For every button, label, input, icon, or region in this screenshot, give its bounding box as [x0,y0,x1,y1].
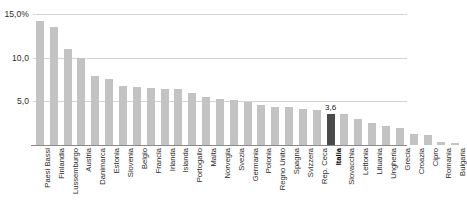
bar-slot [199,14,213,145]
y-axis-tick-label: 5,0 [17,96,29,106]
bar [340,114,348,145]
bar-slot [171,14,185,145]
category-slot: Polonia [255,148,269,212]
bar-series: 3,6 [33,14,407,145]
y-axis: 5,010,015,0% [0,0,31,145]
category-slot: Austria [75,148,89,212]
category-slot: Slovacchia [338,148,352,212]
bar-slot [213,14,227,145]
bar [437,142,445,145]
bar [119,86,127,145]
category-slot: Italia [324,148,338,212]
category-slot: Lettonia [351,148,365,212]
bar [91,76,99,145]
category-slot: Danimarca [88,148,102,212]
category-slot: Estonia [102,148,116,212]
bar [147,88,155,145]
category-slot: Grecia [393,148,407,212]
category-slot: Norvegia [213,148,227,212]
bar-slot [241,14,255,145]
bar-slot [255,14,269,145]
bar [230,100,238,145]
bar-slot [351,14,365,145]
y-axis-tick-label: 15,0% [4,9,29,19]
category-slot: Portogallo [185,148,199,212]
category-slot: Lussemburgo [61,148,75,212]
category-slot: Slovenia [116,148,130,212]
bar [285,107,293,145]
category-slot: Regno Unito [268,148,282,212]
bar [188,93,196,145]
bar-slot [421,14,435,145]
category-slot: Svizzera [296,148,310,212]
bar-slot [102,14,116,145]
bar [424,135,432,145]
category-slot: Lituania [365,148,379,212]
bar [451,143,459,145]
bar-slot [296,14,310,145]
bar [161,89,169,145]
category-label: Bulgaria [459,148,467,176]
bar-slot [47,14,61,145]
bar [133,87,141,145]
bar [299,109,307,145]
category-slot: Paesi Bassi [33,148,47,212]
bar [396,128,404,145]
bar [77,58,85,145]
bar-slot [116,14,130,145]
category-slot: Bulgaria [448,148,462,212]
bar-slot: 3,6 [324,14,338,145]
category-slot: Cipro [421,148,435,212]
bar [174,89,182,145]
bar-slot [227,14,241,145]
bar [105,79,113,145]
category-slot: Finlandia [47,148,61,212]
bar [271,107,279,145]
bar-slot [338,14,352,145]
bar [202,97,210,145]
bar [216,99,224,145]
bar-slot [379,14,393,145]
category-slot: Belgio [130,148,144,212]
bar-slot [310,14,324,145]
bar [313,110,321,145]
category-slot: Francia [144,148,158,212]
bar-slot [407,14,421,145]
bar-slot [61,14,75,145]
category-slot: Germania [241,148,255,212]
category-slot: Svezia [227,148,241,212]
bar-slot [75,14,89,145]
category-slot: Irlanda [158,148,172,212]
bar [36,21,44,145]
bar-slot [448,14,462,145]
bar [244,102,252,145]
category-slot: Spagna [282,148,296,212]
y-axis-tick-label: 10,0 [12,53,29,63]
x-axis-line [31,145,407,146]
x-axis-categories: Paesi BassiFinlandiaLussemburgoAustriaDa… [33,148,407,212]
bar-slot [185,14,199,145]
category-slot: Ungheria [379,148,393,212]
bar [257,105,265,145]
category-slot: Rep. Ceca [310,148,324,212]
bar-slot [158,14,172,145]
bar-slot [434,14,448,145]
bar [64,49,72,145]
category-slot: Islanda [171,148,185,212]
bar-slot [130,14,144,145]
bar [354,119,362,145]
bar [368,123,376,145]
bar-slot [268,14,282,145]
bar-highlighted [327,114,335,145]
category-slot: Croazia [407,148,421,212]
bar-slot [88,14,102,145]
bar-slot [365,14,379,145]
bar-slot [33,14,47,145]
bar-slot [393,14,407,145]
bar-slot [282,14,296,145]
bar [410,134,418,145]
category-slot: Malta [199,148,213,212]
bar-value-label: 3,6 [325,103,336,112]
bar [50,27,58,145]
